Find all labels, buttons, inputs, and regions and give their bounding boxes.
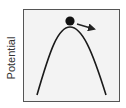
diagram-canvas: [0, 0, 126, 108]
potential-diagram: Potential: [0, 0, 126, 108]
ball-icon: [65, 16, 74, 25]
